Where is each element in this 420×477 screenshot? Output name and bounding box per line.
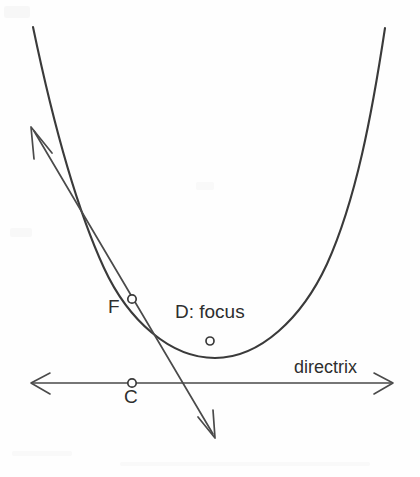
point-label-f: F xyxy=(108,297,120,316)
point-label-c: C xyxy=(124,387,138,406)
point-marker-focus xyxy=(206,337,214,345)
point-marker-f xyxy=(128,295,136,303)
focus-label: D: focus xyxy=(175,302,245,321)
figure-canvas: F C D: focus directrix xyxy=(0,0,420,477)
directrix-label: directrix xyxy=(294,358,357,376)
parabola-diagram xyxy=(0,0,420,477)
